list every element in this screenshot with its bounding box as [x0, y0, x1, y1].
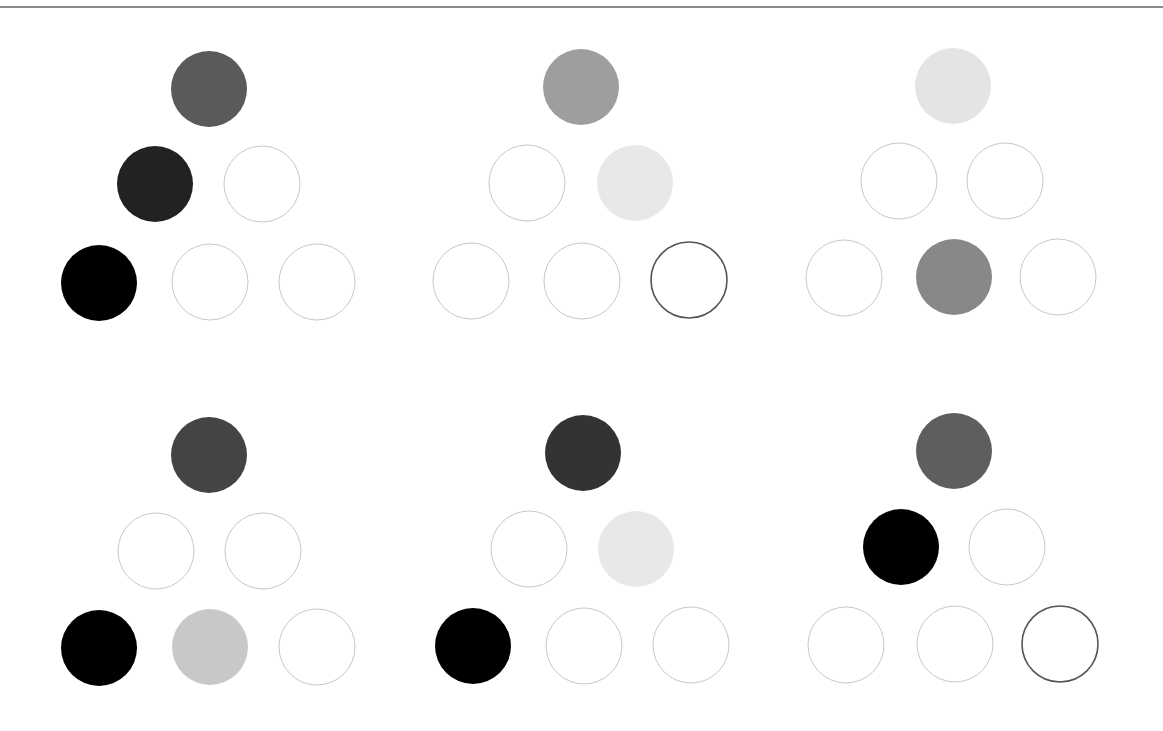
highlighted-empty-hole-circle [651, 242, 727, 318]
empty-hole-circle [1020, 239, 1096, 315]
filled-peg-circle [597, 145, 673, 221]
highlighted-empty-hole-circle [1022, 606, 1098, 682]
empty-hole-circle [433, 243, 509, 319]
empty-hole-circle [917, 606, 993, 682]
filled-peg-circle [598, 511, 674, 587]
triangle-peg-diagram [0, 0, 1163, 731]
filled-peg-circle [435, 608, 511, 684]
empty-hole-circle [172, 244, 248, 320]
empty-hole-circle [489, 145, 565, 221]
filled-peg-circle [916, 413, 992, 489]
empty-hole-circle [118, 513, 194, 589]
empty-hole-circle [491, 511, 567, 587]
empty-hole-circle [969, 509, 1045, 585]
filled-peg-circle [863, 509, 939, 585]
filled-peg-circle [916, 239, 992, 315]
filled-peg-circle [915, 48, 991, 124]
panel-6 [808, 413, 1098, 683]
empty-hole-circle [967, 143, 1043, 219]
filled-peg-circle [61, 245, 137, 321]
empty-hole-circle [806, 240, 882, 316]
empty-hole-circle [279, 244, 355, 320]
empty-hole-circle [653, 607, 729, 683]
empty-hole-circle [224, 146, 300, 222]
panel-3 [806, 48, 1096, 316]
panel-2 [433, 49, 727, 319]
filled-peg-circle [172, 609, 248, 685]
filled-peg-circle [171, 51, 247, 127]
empty-hole-circle [861, 143, 937, 219]
filled-peg-circle [61, 610, 137, 686]
empty-hole-circle [546, 608, 622, 684]
filled-peg-circle [171, 417, 247, 493]
panel-1 [61, 51, 355, 321]
panel-5 [435, 415, 729, 684]
filled-peg-circle [117, 146, 193, 222]
empty-hole-circle [544, 243, 620, 319]
filled-peg-circle [545, 415, 621, 491]
empty-hole-circle [225, 513, 301, 589]
panel-4 [61, 417, 355, 686]
filled-peg-circle [543, 49, 619, 125]
empty-hole-circle [808, 607, 884, 683]
empty-hole-circle [279, 609, 355, 685]
